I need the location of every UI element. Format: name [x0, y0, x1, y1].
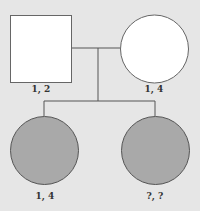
child1-circle: [11, 117, 79, 185]
child1-label: 1, 4: [36, 191, 55, 202]
child2-circle: [122, 117, 190, 185]
pedigree-diagram: 1, 2 1, 4 1, 4 ?, ?: [0, 0, 200, 211]
child2-label: ?, ?: [147, 191, 164, 202]
mother-circle: [121, 15, 189, 83]
father-label: 1, 2: [32, 84, 51, 95]
mother-label: 1, 4: [145, 84, 164, 95]
father-square: [11, 16, 72, 83]
